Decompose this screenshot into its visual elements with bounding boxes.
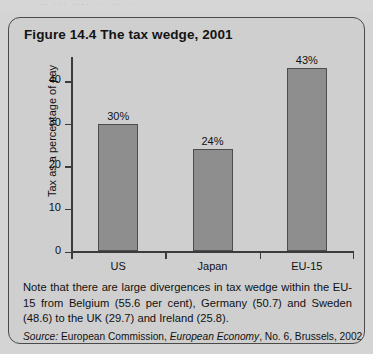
bar-value-label: 30% (107, 110, 129, 122)
x-axis-category-label: EU-15 (291, 260, 322, 272)
x-axis-tick (260, 253, 262, 259)
figure-box: Figure 14.4 The tax wedge, 2001 Tax as a… (8, 17, 365, 344)
source-publication: European Economy (170, 331, 259, 342)
y-axis-tick: 20 (65, 166, 71, 168)
bar: 24% (193, 149, 233, 251)
y-axis-line (71, 57, 73, 253)
y-axis-tick: 40 (65, 81, 71, 83)
y-axis-tick-label: 20 (49, 158, 61, 170)
y-axis-tick-label: 30 (49, 116, 61, 128)
x-axis-tick (165, 253, 167, 259)
x-axis-category-label: Japan (198, 260, 228, 272)
bar: 43% (287, 68, 327, 251)
source-details: , No. 6, Brussels, 2002, p. 94. (259, 331, 365, 342)
bar-value-label: 43% (296, 54, 318, 66)
plot-area: 010203040 30%24%43% USJapanEU-15 (71, 57, 354, 253)
bar-value-label: 24% (201, 135, 223, 147)
page-top-bleed-text: ·· ··· ···· ·· ··· ·· (0, 0, 373, 12)
y-axis-tick: 10 (65, 209, 71, 211)
figure-source: Source: European Commission, European Ec… (23, 331, 355, 342)
figure-note: Note that there are large divergences in… (23, 280, 352, 327)
y-axis-tick-label: 0 (55, 244, 61, 256)
bar-chart: Tax as a percentage of pay 010203040 30%… (19, 51, 356, 269)
x-axis-tick (353, 253, 355, 259)
y-axis-tick-label: 40 (49, 73, 61, 85)
figure-title: Figure 14.4 The tax wedge, 2001 (24, 27, 233, 42)
x-axis-category-label: US (111, 260, 126, 272)
y-axis-tick-label: 10 (49, 201, 61, 213)
y-axis-tick: 30 (65, 124, 71, 126)
source-label: Source: (23, 331, 58, 342)
figure-page: ·· ··· ···· ·· ··· ·· Figure 14.4 The ta… (0, 0, 373, 354)
bar: 30% (98, 124, 138, 252)
source-publisher: European Commission, (61, 331, 167, 342)
x-axis-line (71, 251, 354, 253)
x-axis-tick (71, 253, 73, 259)
